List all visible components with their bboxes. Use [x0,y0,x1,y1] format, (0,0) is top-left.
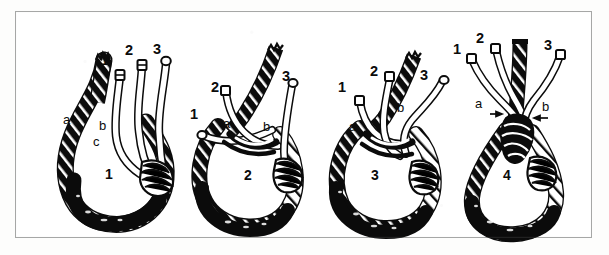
strand-label-2-3: 3 [282,69,290,84]
part-label-4-b: b [542,100,549,113]
strand-label-4-2: 2 [476,31,484,46]
knot-illustration-4 [444,26,594,241]
strand-label-1-3: 3 [153,42,161,57]
figure-number-1: 1 [105,167,113,181]
part-label-3-a: a [349,120,356,133]
strand-label-1-2: 2 [125,43,133,58]
part-label-4-a: a [475,97,482,110]
part-label-1-b: b [99,119,106,132]
knot-drawing-3 [316,42,456,242]
part-label-2-a: a [223,117,230,130]
part-label-1-c: c [93,135,100,148]
strand-label-3-2: 2 [370,64,378,79]
knot-drawing-4 [444,26,594,241]
strand-label-1-1: 1 [101,53,109,68]
part-label-3-b: b [397,101,404,114]
strand-label-2-1: 1 [190,107,198,122]
strand-label-2-2: 2 [211,80,219,95]
leader-line-a [490,112,502,117]
leader-line-b [534,116,548,121]
part-label-2-b: b [263,120,270,133]
diagram-page: 1 2 3 a b c 1 [0,0,609,255]
strand-label-4-1: 1 [453,42,461,57]
figure-number-4: 4 [503,168,511,182]
strand-label-4-3: 3 [544,38,552,53]
diagram-border-frame: 1 2 3 a b c 1 [15,11,592,238]
figure-number-2: 2 [244,168,252,182]
strand-label-3-1: 1 [338,80,346,95]
knot-illustration-3 [316,42,456,242]
strand-label-3-3: 3 [420,68,428,83]
part-label-1-a: a [63,113,70,126]
knot-illustration-2 [184,42,324,242]
knot-drawing-2 [184,42,324,242]
figure-number-3: 3 [371,168,379,182]
